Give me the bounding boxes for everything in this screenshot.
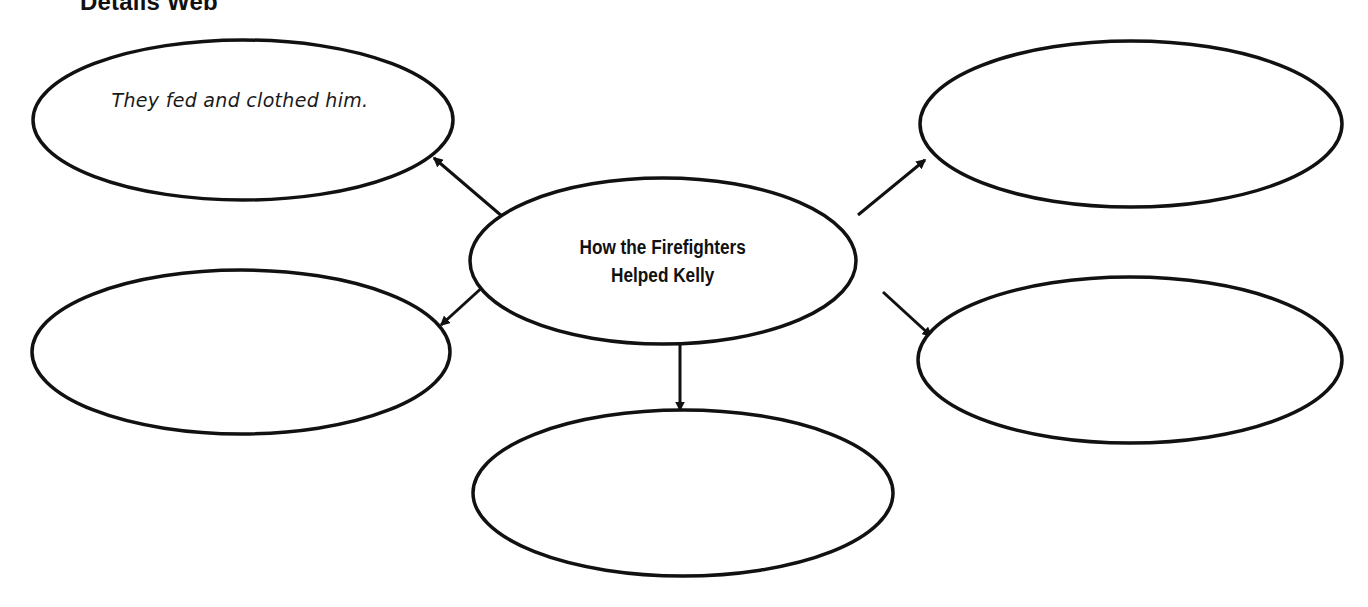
detail-top-right[interactable] xyxy=(951,84,1311,164)
center-topic: How the Firefighters Helped Kelly xyxy=(470,178,856,344)
arrow-to-middle-right xyxy=(883,292,931,336)
detail-text-top-left[interactable]: They fed and clothed him. xyxy=(112,89,369,111)
center-topic-label: How the Firefighters Helped Kelly xyxy=(580,233,746,289)
detail-middle-right[interactable] xyxy=(950,320,1310,400)
detail-bottom-center[interactable] xyxy=(503,453,863,533)
detail-top-left[interactable]: They fed and clothed him. xyxy=(60,60,420,140)
arrow-to-top-right xyxy=(858,160,925,215)
detail-middle-left[interactable] xyxy=(60,312,420,392)
